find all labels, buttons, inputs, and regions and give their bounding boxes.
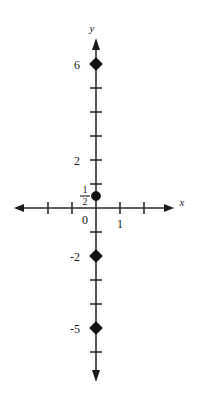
fraction-numerator-one: 1 — [83, 184, 88, 195]
origin-label: 0 — [82, 213, 88, 227]
fraction-denominator-two: 2 — [83, 196, 88, 207]
x-axis-left-arrow-icon — [14, 204, 24, 212]
y-tick-label-neg2: -2 — [70, 250, 80, 264]
y-axis-label: y — [89, 22, 95, 34]
y-tick-label-2: 2 — [74, 154, 80, 168]
x-tick-label-1: 1 — [117, 217, 123, 231]
x-axis-label: x — [179, 196, 185, 208]
y-axis-down-arrow-icon — [92, 370, 100, 382]
y-axis-up-arrow-icon — [92, 38, 100, 50]
data-point-y-one-half[interactable] — [91, 191, 100, 200]
y-tick-label-neg5: -5 — [70, 322, 80, 336]
data-point-y-neg2[interactable] — [90, 250, 103, 263]
x-axis-group — [14, 202, 174, 214]
data-point-y6[interactable] — [90, 58, 103, 71]
axes-svg: y x 6 2 1 2 0 1 -2 -5 — [0, 0, 199, 401]
coordinate-plane-figure: y x 6 2 1 2 0 1 -2 -5 — [0, 0, 199, 401]
data-point-y-neg5[interactable] — [90, 322, 103, 335]
y-tick-label-6: 6 — [74, 58, 80, 72]
x-axis-right-arrow-icon — [164, 204, 174, 212]
